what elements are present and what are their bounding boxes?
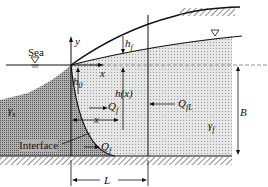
y-axis-label: y bbox=[75, 36, 80, 47]
freshwater-region bbox=[71, 36, 232, 156]
sea-label: Sea bbox=[28, 47, 44, 58]
hx-label: h(x) bbox=[115, 88, 133, 99]
qf-label: Qf bbox=[108, 101, 118, 115]
x-axis-label: x bbox=[100, 68, 105, 79]
qfl-label: QfL bbox=[178, 98, 193, 112]
gamma-s-label: γs bbox=[8, 105, 15, 119]
gamma-f-label: γf bbox=[208, 120, 215, 134]
l-label: L bbox=[104, 175, 110, 186]
x-dimension-label: x bbox=[94, 114, 99, 125]
q-lower-label: Qf bbox=[101, 141, 111, 155]
h0-label: h0 bbox=[73, 76, 83, 90]
interface-label: Interface bbox=[19, 140, 58, 151]
b-label: B bbox=[240, 107, 247, 118]
hf-label: hf bbox=[125, 38, 133, 52]
base-hatch bbox=[0, 157, 232, 165]
ground-hatch bbox=[180, 8, 235, 16]
aquifer-diagram bbox=[0, 0, 268, 187]
